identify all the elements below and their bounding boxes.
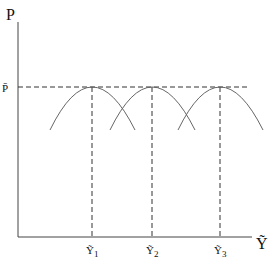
y3-label: Ỹ3	[214, 244, 227, 259]
y1-label: Ỹ1	[86, 244, 98, 259]
diagram-svg: P Ỹ P̄ Ỹ1 Ỹ2 Ỹ3	[0, 0, 275, 267]
y2-label: Ỹ2	[146, 244, 158, 259]
diagram: P Ỹ P̄ Ỹ1 Ỹ2 Ỹ3	[0, 0, 275, 267]
x-axis-label: Ỹ	[256, 235, 268, 252]
y-axis-label: P	[6, 6, 15, 23]
p-bar-label: P̄	[2, 82, 8, 94]
